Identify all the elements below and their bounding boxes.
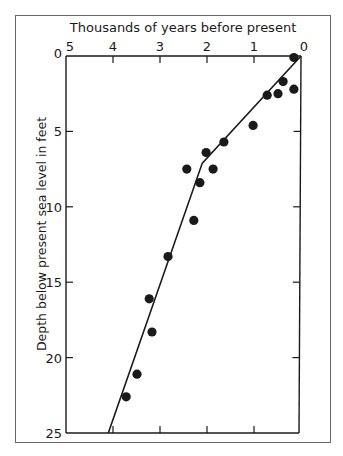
data-point	[132, 370, 141, 379]
data-point	[122, 392, 131, 401]
data-point	[147, 327, 156, 336]
right-axis-line	[299, 56, 301, 433]
x-tick-label: 3	[156, 39, 164, 54]
y-tick-label: 10	[45, 200, 62, 215]
data-point	[249, 121, 258, 130]
data-point	[163, 252, 172, 261]
data-point	[273, 89, 282, 98]
x-axis-title: Thousands of years before present	[69, 20, 296, 35]
data-point	[263, 91, 272, 100]
y-tick-label: 25	[45, 426, 62, 441]
y-axis-title: Depth below present sea level in feet	[34, 117, 49, 351]
y-tick-label: 20	[45, 351, 62, 366]
data-point	[195, 178, 204, 187]
y-tick-label: 5	[54, 124, 62, 139]
data-point	[182, 165, 191, 174]
data-point	[279, 77, 288, 86]
data-point	[145, 294, 154, 303]
data-points-group	[122, 53, 299, 402]
y-tick-label: 0	[54, 46, 62, 61]
x-tick-label: 1	[250, 39, 258, 54]
data-point	[189, 216, 198, 225]
y-tick-label: 15	[45, 275, 62, 290]
x-tick-label: 5	[66, 39, 74, 54]
chart-figure: Thousands of years before present Depth …	[0, 0, 343, 456]
x-tick-label: 2	[203, 39, 211, 54]
data-point	[289, 53, 298, 62]
data-point	[202, 148, 211, 157]
data-point	[209, 165, 218, 174]
x-tick-label: 0	[300, 39, 308, 54]
y-axis-ticks: 0510152025	[45, 46, 300, 441]
data-point	[289, 85, 298, 94]
plot-area	[66, 56, 301, 433]
data-point	[219, 137, 228, 146]
x-axis-ticks: 543210	[66, 39, 308, 433]
x-tick-label: 4	[109, 39, 117, 54]
